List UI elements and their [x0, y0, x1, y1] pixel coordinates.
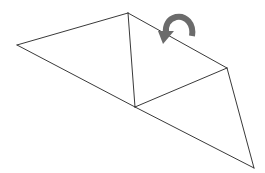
edge-AD: [17, 45, 135, 107]
edge-BC: [128, 13, 227, 68]
edge-AB: [17, 13, 128, 45]
fold-diagram: [0, 0, 265, 173]
edge-BD: [128, 13, 135, 107]
diagram-canvas: [0, 0, 265, 173]
diagram-edges: [17, 13, 254, 168]
edge-DE: [135, 107, 254, 168]
edge-DC: [135, 68, 227, 107]
edge-CE: [227, 68, 254, 168]
curved-arrow-icon: [158, 17, 192, 44]
